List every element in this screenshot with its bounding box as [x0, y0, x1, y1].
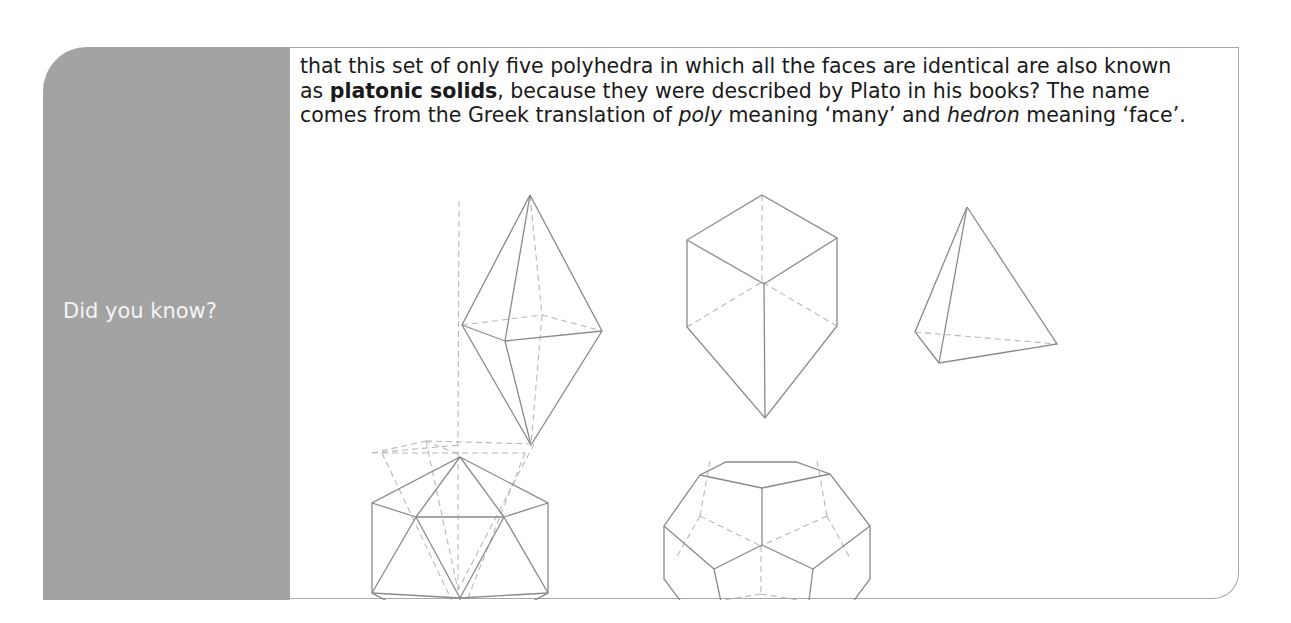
callout-content: that this set of only five polyhedra in …	[290, 47, 1239, 599]
octahedron-figure	[462, 195, 602, 445]
callout-sidebar: Did you know?	[43, 47, 290, 600]
did-you-know-callout: Did you know? that this set of only five…	[43, 47, 1239, 600]
dodecahedron-figure	[664, 461, 870, 600]
polyhedra-illustrations	[290, 48, 1239, 600]
icosahedron-figure	[372, 201, 548, 600]
cube-figure	[687, 195, 837, 418]
tetrahedron-figure	[915, 207, 1057, 363]
callout-label: Did you know?	[63, 299, 217, 323]
